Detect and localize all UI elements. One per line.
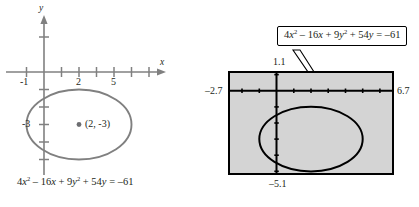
center-point-dot xyxy=(77,122,82,127)
x-tick-label-2: 2 xyxy=(76,76,81,87)
left-graph-panel: x y -1 2 5 -3 (2, -3) 4x2 – 16x + 9y2 + … xyxy=(0,0,205,207)
calculator-screen[interactable] xyxy=(228,71,394,175)
center-point-label: (2, -3) xyxy=(85,118,110,129)
callout-var-y2: y xyxy=(369,29,374,40)
eq-rhs: –61 xyxy=(118,176,134,187)
eq-minus16: – 16 xyxy=(33,176,51,187)
eq-plus54: + 54 xyxy=(83,176,102,187)
callout-minus16: – 16 xyxy=(300,29,318,40)
eq-exp-x: 2 xyxy=(27,175,30,182)
x-axis-arrow xyxy=(157,68,166,75)
x-tick-label-5: 5 xyxy=(111,76,116,87)
callout-exp-x: 2 xyxy=(294,28,297,35)
callout-equals: = xyxy=(376,29,382,40)
window-label-xmax: 6.7 xyxy=(397,85,410,96)
window-label-ymin: –5.1 xyxy=(269,178,287,189)
callout-rhs: –61 xyxy=(385,29,401,40)
window-label-ymax: 1.1 xyxy=(273,56,286,67)
eq-var-x2: x xyxy=(51,176,56,187)
calculator-panel: 4x2 – 16x + 9y2 + 54y = –61 1.1 –2.7 6.7… xyxy=(205,0,419,207)
left-equation: 4x2 – 16x + 9y2 + 54y = –61 xyxy=(17,176,133,187)
eq-plus9: + 9 xyxy=(58,176,72,187)
callout-plus54: + 54 xyxy=(350,29,369,40)
y-axis-arrow xyxy=(40,15,47,24)
eq-equals: = xyxy=(109,176,115,187)
callout-exp-y: 2 xyxy=(344,28,347,35)
eq-var-y2: y xyxy=(102,176,107,187)
figure-root: x y -1 2 5 -3 (2, -3) 4x2 – 16x + 9y2 + … xyxy=(0,0,419,207)
callout-var-x2: x xyxy=(318,29,323,40)
x-tick-label-neg1: -1 xyxy=(20,76,28,87)
window-label-xmin: –2.7 xyxy=(205,85,223,96)
callout-plus9: + 9 xyxy=(325,29,339,40)
eq-exp-y: 2 xyxy=(77,175,80,182)
y-tick-label-neg3: -3 xyxy=(22,118,30,129)
callout-equation-box: 4x2 – 16x + 9y2 + 54y = –61 xyxy=(277,26,407,46)
y-axis-label: y xyxy=(39,3,43,13)
calculator-plot-svg xyxy=(228,71,394,175)
x-axis-label: x xyxy=(160,57,164,67)
